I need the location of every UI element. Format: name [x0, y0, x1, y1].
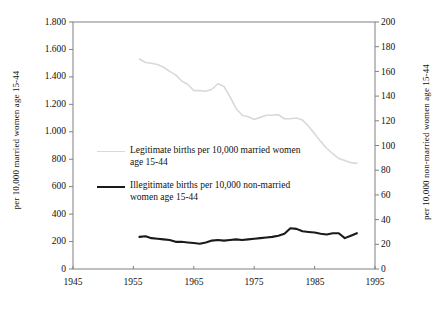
series-line-illegitimate [139, 228, 356, 243]
y-right-tick-marks [375, 22, 379, 269]
series-line-legitimate [139, 59, 356, 163]
y-left-tick-marks [69, 22, 73, 269]
plot-frame [73, 22, 375, 269]
chart-figure: per 10,000 married women age 15-44 per 1… [0, 0, 441, 310]
plot-border [73, 22, 375, 269]
plot-canvas [0, 0, 441, 310]
